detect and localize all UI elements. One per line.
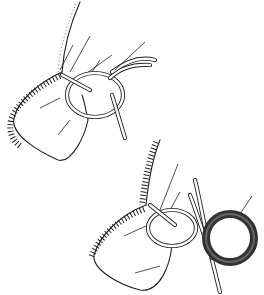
illustration bbox=[0, 0, 264, 295]
top-panel-tissue bbox=[10, 2, 112, 160]
top-panel-knot bbox=[62, 42, 155, 138]
ring bbox=[206, 196, 254, 262]
bottom-panel-tissue bbox=[91, 140, 180, 290]
